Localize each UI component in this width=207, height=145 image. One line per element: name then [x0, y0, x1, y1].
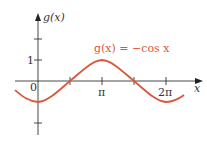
- origin-label: 0: [30, 81, 37, 94]
- x-axis-label: x: [194, 82, 201, 95]
- y-axis-arrow-icon: [35, 13, 41, 21]
- y-tick-label-1: 1: [27, 54, 34, 67]
- function-label: g(x) = −cos x: [94, 42, 170, 55]
- chart: g(x) x 0 1 π 2π g(x) = −cos x: [0, 0, 207, 145]
- x-tick-label-2pi: 2π: [158, 86, 172, 99]
- x-tick-label-pi: π: [98, 86, 105, 99]
- y-axis-label: g(x): [43, 11, 65, 24]
